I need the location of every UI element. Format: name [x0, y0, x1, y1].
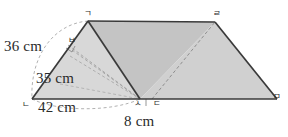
edge-top-g-r — [88, 21, 215, 22]
vertex-label-bieup: ㅂ — [68, 36, 76, 45]
dimension-label-42cm: 42 cm — [38, 100, 76, 115]
dimension-label-35cm: 35 cm — [36, 71, 74, 86]
vertex-label-mieum: ㅁ — [273, 92, 281, 101]
vertex-label-digeut: ㄷ — [153, 99, 161, 108]
vertex-label-siot: ㅅ — [134, 99, 142, 108]
vertex-label-giyeok: ㄱ — [84, 9, 92, 18]
dimension-label-8cm: 8 cm — [124, 114, 154, 129]
vertex-label-rieul: ㄹ — [213, 9, 221, 18]
geometry-figure: 36 cm 35 cm 42 cm 8 cm ㄱ ㄴ ㄷ ㄹ ㅁ ㅂ ㅅ — [0, 0, 288, 137]
vertex-label-nieun: ㄴ — [22, 100, 30, 109]
dimension-label-36cm: 36 cm — [4, 39, 42, 54]
